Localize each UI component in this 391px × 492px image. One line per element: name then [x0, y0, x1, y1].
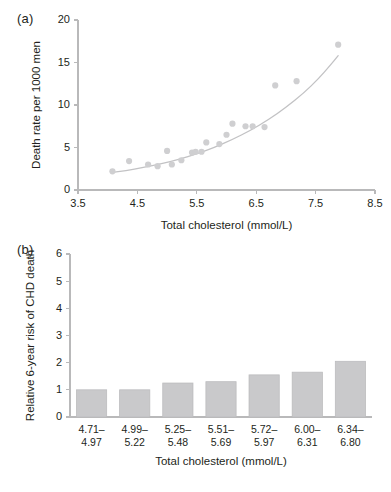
bar [163, 383, 193, 417]
bar-category-label: 5.69 [211, 436, 232, 448]
bar-category-label: 5.72– [251, 423, 277, 435]
panel-a-label: (a) [17, 11, 34, 26]
panel-a: (a) 051015203.54.55.56.57.58.5Total chol… [0, 0, 391, 242]
bar [249, 375, 279, 417]
bar-category-label: 5.22 [124, 436, 145, 448]
data-point [223, 132, 229, 138]
x-axis-title: Total cholesterol (mmol/L) [161, 219, 293, 231]
bar-category-label: 5.48 [168, 436, 189, 448]
y-tick-label: 6 [56, 247, 62, 259]
x-tick-label: 8.5 [367, 197, 382, 209]
bar [292, 372, 322, 417]
bar-category-label: 5.97 [254, 436, 275, 448]
x-tick-label: 7.5 [308, 197, 323, 209]
data-point [164, 148, 170, 154]
data-point [272, 82, 278, 88]
data-point [229, 121, 235, 127]
x-axis-title: Total cholesterol (mmol/L) [155, 455, 287, 467]
y-tick-label: 4 [56, 302, 62, 314]
bar [335, 361, 365, 417]
bar-category-label: 5.51– [208, 423, 234, 435]
data-point [193, 149, 199, 155]
bar [120, 390, 150, 417]
data-point [250, 123, 256, 129]
data-point [293, 78, 299, 84]
bar-category-label: 6.34– [337, 423, 363, 435]
y-tick-label: 10 [58, 98, 70, 110]
data-point [216, 141, 222, 147]
x-tick-label: 5.5 [189, 197, 204, 209]
bar-category-label: 5.25– [165, 423, 191, 435]
data-point [169, 161, 175, 167]
data-point [155, 163, 161, 169]
data-point [178, 157, 184, 163]
data-point [335, 42, 341, 48]
x-tick-label: 3.5 [70, 197, 85, 209]
figure-container: (a) 051015203.54.55.56.57.58.5Total chol… [0, 0, 391, 492]
bar-chart-b: 01234564.71–4.974.99–5.225.25–5.485.51–5… [0, 240, 391, 492]
axis-lines [78, 20, 375, 190]
bar-category-label: 4.99– [122, 423, 148, 435]
x-tick-label: 6.5 [249, 197, 264, 209]
data-point [198, 149, 204, 155]
data-point [242, 123, 248, 129]
y-tick-label: 0 [64, 183, 70, 195]
y-tick-label: 1 [56, 383, 62, 395]
y-axis-title: Death rate per 1000 men [30, 41, 42, 169]
x-tick-label: 4.5 [130, 197, 145, 209]
data-point [261, 124, 267, 130]
bar [206, 382, 236, 417]
y-axis-title: Relative 6-year risk of CHD death [24, 250, 36, 421]
y-tick-label: 3 [56, 329, 62, 341]
y-tick-label: 2 [56, 356, 62, 368]
data-point [145, 161, 151, 167]
y-tick-label: 5 [56, 275, 62, 287]
bar-category-label: 6.31 [297, 436, 318, 448]
y-tick-label: 20 [58, 13, 70, 25]
y-tick-label: 0 [56, 410, 62, 422]
fitted-curve [111, 56, 339, 173]
y-tick-label: 5 [64, 141, 70, 153]
data-point [126, 158, 132, 164]
bar [76, 390, 106, 417]
data-point [203, 139, 209, 145]
bar-category-label: 4.97 [81, 436, 102, 448]
bar-category-label: 6.80 [340, 436, 361, 448]
panel-b-label: (b) [17, 242, 34, 257]
bar-category-label: 6.00– [294, 423, 320, 435]
data-point [109, 168, 115, 174]
y-tick-label: 15 [58, 56, 70, 68]
scatter-chart-a: 051015203.54.55.56.57.58.5Total choleste… [0, 0, 391, 242]
panel-b: (b) 01234564.71–4.974.99–5.225.25–5.485.… [0, 240, 391, 492]
bar-category-label: 4.71– [78, 423, 104, 435]
